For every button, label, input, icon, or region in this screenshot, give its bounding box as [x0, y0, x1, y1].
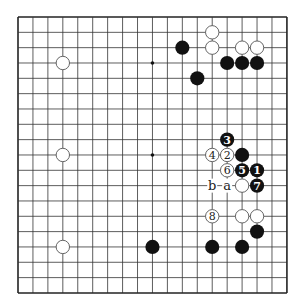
white-stone — [250, 210, 263, 223]
black-stone — [145, 240, 159, 254]
white-stone — [235, 210, 248, 223]
stone-disc — [190, 71, 204, 85]
stone-disc — [206, 26, 219, 39]
black-stone — [205, 240, 219, 254]
white-stone — [206, 41, 219, 54]
black-stone — [235, 148, 249, 162]
move-number: 7 — [253, 180, 261, 193]
move-number: 4 — [209, 149, 216, 162]
stone-disc — [206, 41, 219, 54]
white-stone — [56, 148, 69, 161]
move-number: 6 — [224, 164, 231, 177]
stone-disc — [56, 240, 69, 253]
stone-disc — [145, 240, 159, 254]
white-stone-move-8: 8 — [206, 210, 219, 224]
stone-disc — [205, 240, 219, 254]
black-stone — [235, 56, 249, 70]
move-number: 3 — [223, 134, 231, 147]
star-point — [151, 153, 155, 157]
point-label-b: b — [208, 178, 216, 193]
go-board: ba 34265178 — [0, 0, 300, 304]
black-stone-move-7: 7 — [250, 179, 264, 193]
stone-disc — [250, 225, 264, 239]
black-stone — [250, 56, 264, 70]
black-stone-move-5: 5 — [235, 163, 249, 177]
black-stone-move-3: 3 — [220, 133, 234, 147]
white-stone-move-2: 2 — [220, 148, 233, 162]
move-number: 1 — [253, 164, 261, 177]
white-stone — [56, 56, 69, 69]
stone-disc — [175, 41, 189, 55]
white-stone — [235, 41, 248, 54]
move-number: 5 — [238, 164, 246, 177]
stone-disc — [250, 210, 263, 223]
move-number: 8 — [209, 210, 216, 223]
black-stone — [220, 56, 234, 70]
stone-disc — [56, 56, 69, 69]
white-stone — [206, 26, 219, 39]
stone-disc — [235, 148, 249, 162]
stone-disc — [235, 210, 248, 223]
black-stone-move-1: 1 — [250, 163, 264, 177]
go-board-diagram: ba 34265178 — [0, 0, 300, 304]
stone-disc — [235, 179, 248, 192]
white-stone — [250, 41, 263, 54]
stone-disc — [250, 56, 264, 70]
black-stone — [190, 71, 204, 85]
point-label-a: a — [223, 178, 231, 193]
stone-disc — [235, 41, 248, 54]
stone-disc — [235, 240, 249, 254]
stone-disc — [56, 148, 69, 161]
star-point — [151, 61, 155, 65]
black-stone — [250, 225, 264, 239]
white-stone-move-4: 4 — [206, 148, 219, 162]
black-stone — [235, 240, 249, 254]
white-stone-move-6: 6 — [220, 164, 233, 178]
stone-disc — [220, 56, 234, 70]
move-number: 2 — [224, 149, 231, 162]
white-stone — [235, 179, 248, 192]
stone-disc — [235, 56, 249, 70]
white-stone — [56, 240, 69, 253]
stone-disc — [250, 41, 263, 54]
black-stone — [175, 41, 189, 55]
